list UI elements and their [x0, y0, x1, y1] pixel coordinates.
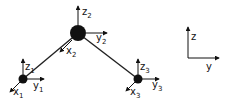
y3-label: y3 [152, 79, 162, 93]
x2-label: x2 [66, 45, 76, 59]
z2-label: z2 [82, 6, 92, 20]
link-2-3 [78, 33, 138, 79]
y1-label: y1 [33, 80, 43, 94]
z1-label: z1 [25, 61, 35, 75]
node-3-ball [134, 75, 143, 84]
global-reference-frame: z y [188, 27, 219, 72]
node-3-frame: z3 y3 x3 [126, 59, 162, 100]
x1-label: x1 [13, 86, 23, 100]
node-2-ball [70, 25, 86, 41]
global-y-label: y [206, 61, 212, 72]
three-node-frame-diagram: z2 y2 x2 z1 y1 x1 z3 y3 x3 z y [0, 0, 228, 104]
z3-label: z3 [140, 61, 150, 75]
node-1-ball [19, 75, 28, 84]
y2-label: y2 [96, 32, 106, 46]
node-2-frame: z2 y2 x2 [60, 6, 107, 59]
global-z-label: z [191, 31, 196, 42]
x3-label: x3 [130, 86, 140, 100]
